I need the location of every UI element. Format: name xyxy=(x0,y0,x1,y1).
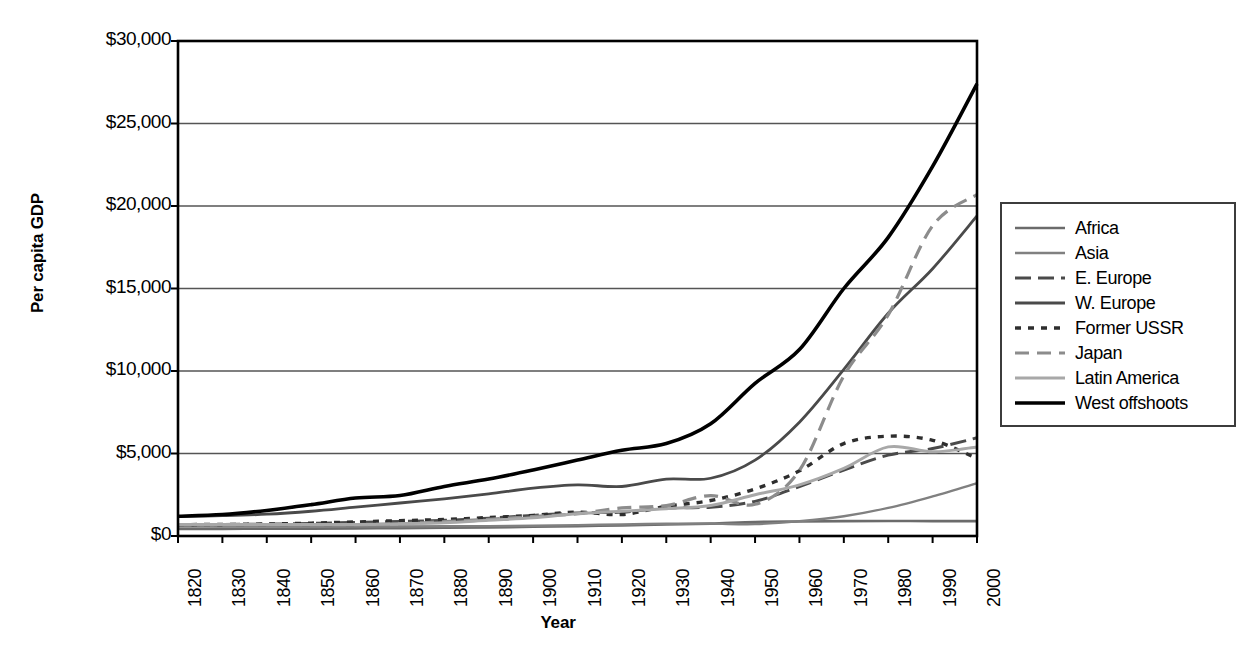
legend-item-label: W. Europe xyxy=(1075,293,1155,313)
legend-items: AfricaAsiaE. EuropeW. EuropeFormer USSRJ… xyxy=(1014,215,1232,415)
legend-item-label: West offshoots xyxy=(1075,393,1188,413)
legend-line-swatch-icon xyxy=(1014,243,1066,263)
per-capita-gdp-chart: Per capita GDP Year $0$5,000$10,000$15,0… xyxy=(0,0,1255,660)
legend-item-label: Latin America xyxy=(1075,368,1179,388)
legend-item-label: E. Europe xyxy=(1075,268,1151,288)
legend-item: Africa xyxy=(1014,215,1232,240)
legend-item: Former USSR xyxy=(1014,315,1232,340)
legend-line-swatch-icon xyxy=(1014,268,1066,288)
series-line xyxy=(178,194,977,525)
legend-item: Asia xyxy=(1014,240,1232,265)
series-line xyxy=(178,84,977,516)
legend-item: West offshoots xyxy=(1014,390,1232,415)
series-line xyxy=(178,216,977,517)
legend-item: Japan xyxy=(1014,340,1232,365)
legend-item-label: Africa xyxy=(1075,218,1119,238)
legend-item-label: Asia xyxy=(1075,243,1108,263)
legend-item-label: Japan xyxy=(1075,343,1122,363)
legend-item: E. Europe xyxy=(1014,265,1232,290)
legend-line-swatch-icon xyxy=(1014,318,1066,338)
legend-line-swatch-icon xyxy=(1014,218,1066,238)
legend-line-swatch-icon xyxy=(1014,343,1066,363)
legend-line-swatch-icon xyxy=(1014,368,1066,388)
legend-line-swatch-icon xyxy=(1014,393,1066,413)
legend-line-swatch-icon xyxy=(1014,293,1066,313)
legend-item-label: Former USSR xyxy=(1075,318,1184,338)
legend-item: W. Europe xyxy=(1014,290,1232,315)
legend: AfricaAsiaE. EuropeW. EuropeFormer USSRJ… xyxy=(1000,202,1236,427)
legend-item: Latin America xyxy=(1014,365,1232,390)
